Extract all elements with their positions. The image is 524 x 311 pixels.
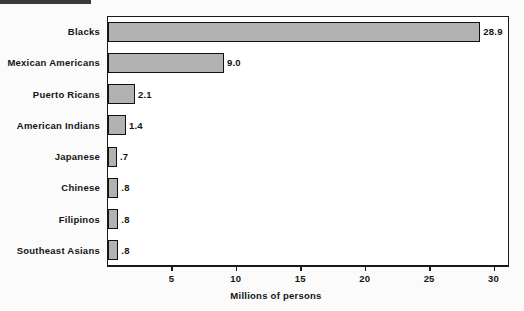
bar-group: 1.4	[108, 110, 143, 141]
category-label: Filipinos	[0, 214, 100, 225]
bar-row: Puerto Ricans2.1	[0, 79, 524, 110]
x-tick-label: 30	[488, 273, 499, 284]
x-tick-label: 10	[230, 273, 241, 284]
category-label: Southeast Asians	[0, 245, 100, 256]
category-label: Blacks	[0, 26, 100, 37]
x-tick-label: 20	[359, 273, 370, 284]
bar-value-label: 2.1	[138, 89, 152, 100]
bar-value-label: .8	[121, 182, 129, 193]
bar-row: American Indians1.4	[0, 110, 524, 141]
bar-group: .7	[108, 141, 128, 172]
top-rule-decoration	[0, 0, 91, 4]
bar-value-label: .8	[121, 214, 129, 225]
x-tick	[236, 265, 238, 271]
bar-row: Southeast Asians.8	[0, 235, 524, 266]
x-axis-title-text: Millions of persons	[230, 290, 321, 301]
bar-row: Blacks28.9	[0, 16, 524, 47]
bar-group: .8	[108, 235, 130, 266]
bar[interactable]	[108, 53, 224, 73]
bar[interactable]	[108, 209, 118, 229]
bar[interactable]	[108, 22, 480, 42]
x-tick-label: 15	[295, 273, 306, 284]
x-tick-label: 25	[424, 273, 435, 284]
bar-row: Mexican Americans9.0	[0, 47, 524, 78]
bar-value-label: 28.9	[483, 26, 502, 37]
category-label: Puerto Ricans	[0, 89, 100, 100]
x-axis-line	[107, 265, 509, 267]
category-label: American Indians	[0, 120, 100, 131]
x-tick	[300, 265, 302, 271]
bar-row: Chinese.8	[0, 172, 524, 203]
bar[interactable]	[108, 240, 118, 260]
bar-rows: Blacks28.9Mexican Americans9.0Puerto Ric…	[0, 16, 524, 266]
bar[interactable]	[108, 178, 118, 198]
category-label: Chinese	[0, 182, 100, 193]
category-label: Japanese	[0, 151, 100, 162]
x-tick	[494, 265, 496, 271]
bar-value-label: .8	[121, 245, 129, 256]
x-tick-label: 5	[169, 273, 174, 284]
x-tick	[171, 265, 173, 271]
bar-group: .8	[108, 204, 130, 235]
bar-group: 9.0	[108, 47, 241, 78]
bar-value-label: 1.4	[129, 120, 143, 131]
x-axis-title: Millions of persons	[0, 290, 524, 301]
bar-row: Filipinos.8	[0, 204, 524, 235]
x-tick	[429, 265, 431, 271]
bar-group: 2.1	[108, 79, 152, 110]
bar-value-label: .7	[120, 151, 128, 162]
bar[interactable]	[108, 115, 126, 135]
bar-group: .8	[108, 172, 130, 203]
bar-row: Japanese.7	[0, 141, 524, 172]
bar-group: 28.9	[108, 16, 503, 47]
category-label: Mexican Americans	[0, 57, 100, 68]
x-tick	[365, 265, 367, 271]
bar-value-label: 9.0	[227, 57, 241, 68]
chart-figure: Blacks28.9Mexican Americans9.0Puerto Ric…	[0, 0, 524, 311]
bar[interactable]	[108, 147, 117, 167]
bar[interactable]	[108, 84, 135, 104]
